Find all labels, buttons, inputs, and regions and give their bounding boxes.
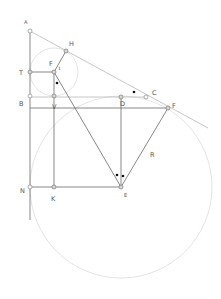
label-c: C bbox=[152, 89, 157, 97]
point-n bbox=[28, 185, 32, 189]
point-f-right bbox=[166, 106, 170, 110]
point-c bbox=[144, 95, 148, 99]
label-t: T bbox=[18, 69, 23, 77]
label-f-small: F bbox=[49, 60, 53, 68]
tangent-line-ac bbox=[30, 31, 208, 128]
point-a bbox=[28, 29, 32, 33]
geometry-diagram: A H T F 1 B V D C F R N K E bbox=[0, 0, 221, 299]
point-h bbox=[64, 49, 68, 53]
label-a: A bbox=[24, 19, 28, 25]
label-f-right: F bbox=[172, 102, 176, 110]
label-i: 1 bbox=[58, 66, 61, 71]
angle-mark-e-right bbox=[122, 175, 125, 178]
point-d bbox=[119, 95, 123, 99]
angle-mark-f bbox=[56, 82, 59, 85]
point-b-open bbox=[28, 94, 32, 98]
point-v bbox=[52, 94, 56, 98]
segment-ef bbox=[121, 108, 168, 187]
label-k: K bbox=[51, 195, 56, 203]
label-d: D bbox=[120, 100, 125, 108]
label-e: E bbox=[124, 192, 127, 198]
label-b: B bbox=[19, 100, 23, 108]
label-n: N bbox=[20, 187, 25, 195]
angle-mark-c bbox=[133, 91, 136, 94]
point-f-small bbox=[52, 70, 56, 74]
angle-mark-e-left bbox=[116, 174, 119, 177]
point-e bbox=[119, 185, 123, 189]
segment-fe bbox=[54, 72, 121, 187]
label-r: R bbox=[150, 151, 155, 159]
label-v: V bbox=[52, 103, 57, 111]
point-k bbox=[52, 185, 56, 189]
point-t bbox=[28, 70, 32, 74]
label-h: H bbox=[69, 40, 74, 48]
